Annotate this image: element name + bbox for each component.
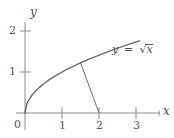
- sqrt-function-figure: y x 2 1 0 1 2 3 y = √x: [0, 0, 174, 138]
- square-root-icon: √x: [138, 44, 152, 55]
- x-tick-label-3: 3: [133, 120, 140, 131]
- plot-canvas: [0, 0, 174, 138]
- curve-equation-label: y = √x: [112, 44, 153, 55]
- y-tick-label-1: 1: [9, 66, 16, 77]
- origin-label: 0: [14, 119, 21, 130]
- equation-lhs: y: [112, 43, 118, 56]
- equation-equals: =: [122, 43, 135, 56]
- radical-overbar: [145, 44, 152, 45]
- x-tick-label-2: 2: [96, 120, 103, 131]
- y-axis-label: y: [30, 6, 37, 18]
- normal-segment: [81, 63, 100, 113]
- x-tick-label-1: 1: [59, 120, 66, 131]
- x-axis-label: x: [163, 105, 170, 117]
- y-tick-label-2: 2: [9, 25, 16, 36]
